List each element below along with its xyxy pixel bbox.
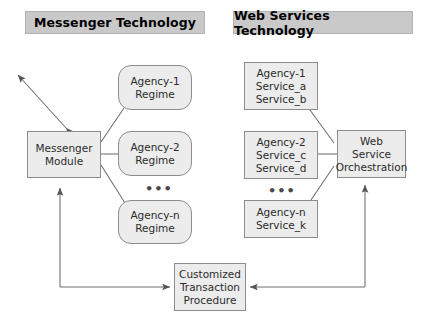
node-agency-1-services-line-1: Service_a bbox=[256, 80, 307, 93]
header-messenger-technology-label: Messenger Technology bbox=[34, 15, 196, 30]
node-customized-transaction-procedure-line-1: Transaction bbox=[180, 281, 240, 294]
header-web-services-technology-label: Web Services Technology bbox=[234, 8, 412, 38]
node-agency-2-services-line-0: Agency-2 bbox=[256, 136, 305, 149]
node-customized-transaction-procedure[interactable]: Customized Transaction Procedure bbox=[174, 263, 246, 311]
node-agency-1-services-line-0: Agency-1 bbox=[256, 67, 305, 80]
node-agency-n-regime-line-0: Agency-n bbox=[130, 209, 179, 222]
ellipsis-regime: ••• bbox=[145, 184, 171, 194]
node-agency-n-services[interactable]: Agency-n Service_k bbox=[244, 200, 318, 238]
node-messenger-module-line-1: Module bbox=[45, 155, 83, 168]
node-agency-2-services[interactable]: Agency-2 Service_c Service_d bbox=[244, 131, 318, 179]
node-agency-2-services-line-1: Service_c bbox=[256, 149, 306, 162]
diagram-canvas: Messenger Technology Web Services Techno… bbox=[0, 0, 421, 322]
node-web-service-orchestration-line-1: Service bbox=[352, 148, 391, 161]
node-agency-2-regime-line-0: Agency-2 bbox=[130, 141, 179, 154]
node-messenger-module-line-0: Messenger bbox=[35, 142, 92, 155]
node-agency-1-services-line-2: Service_b bbox=[256, 93, 307, 106]
node-agency-1-regime-line-0: Agency-1 bbox=[130, 75, 179, 88]
connector-external-messenger bbox=[18, 75, 66, 128]
node-agency-1-services[interactable]: Agency-1 Service_a Service_b bbox=[244, 62, 318, 110]
node-agency-n-regime-line-1: Regime bbox=[135, 222, 175, 235]
node-messenger-module[interactable]: Messenger Module bbox=[27, 131, 101, 178]
ellipsis-regime-text: ••• bbox=[145, 181, 173, 196]
node-web-service-orchestration-line-2: Orchestration bbox=[336, 161, 408, 174]
header-web-services-technology: Web Services Technology bbox=[233, 11, 413, 34]
header-messenger-technology: Messenger Technology bbox=[25, 11, 205, 34]
node-agency-2-services-line-2: Service_d bbox=[256, 162, 307, 175]
node-agency-2-regime-line-1: Regime bbox=[135, 154, 175, 167]
ellipsis-services: ••• bbox=[268, 186, 294, 196]
ellipsis-services-text: ••• bbox=[268, 183, 296, 198]
node-agency-n-services-line-1: Service_k bbox=[256, 219, 306, 232]
node-web-service-orchestration-line-0: Web bbox=[360, 135, 383, 148]
node-customized-transaction-procedure-line-0: Customized bbox=[179, 268, 241, 281]
node-agency-2-regime[interactable]: Agency-2 Regime bbox=[118, 131, 192, 176]
node-agency-n-services-line-0: Agency-n bbox=[256, 206, 305, 219]
node-customized-transaction-procedure-line-2: Procedure bbox=[184, 294, 237, 307]
node-agency-1-regime-line-1: Regime bbox=[135, 88, 175, 101]
node-agency-n-regime[interactable]: Agency-n Regime bbox=[118, 200, 192, 244]
node-web-service-orchestration[interactable]: Web Service Orchestration bbox=[337, 130, 406, 178]
node-agency-1-regime[interactable]: Agency-1 Regime bbox=[118, 65, 192, 110]
